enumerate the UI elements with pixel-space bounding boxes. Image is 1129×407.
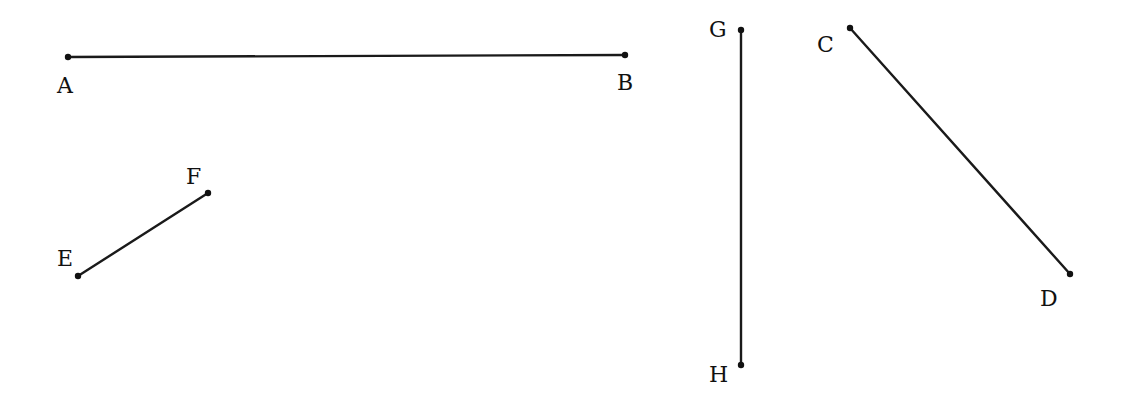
line-ab	[68, 55, 625, 57]
geometry-diagram: A B E F G H C D	[0, 0, 1129, 407]
point-c	[847, 25, 853, 31]
segment-cd: C D	[817, 25, 1073, 311]
point-h	[738, 362, 744, 368]
label-b: B	[617, 70, 633, 95]
label-h: H	[709, 362, 728, 387]
label-d: D	[1040, 286, 1058, 311]
segment-gh: G H	[709, 17, 744, 387]
line-cd	[850, 28, 1070, 274]
label-g: G	[709, 17, 727, 42]
label-f: F	[186, 164, 201, 189]
point-g	[738, 27, 744, 33]
point-b	[622, 52, 628, 58]
point-e	[75, 273, 81, 279]
line-ef	[78, 193, 208, 276]
point-a	[65, 54, 71, 60]
point-f	[205, 190, 211, 196]
label-e: E	[57, 246, 73, 271]
segment-ef: E F	[57, 164, 211, 279]
segment-ab: A B	[56, 52, 633, 98]
point-d	[1067, 271, 1073, 277]
label-c: C	[817, 32, 834, 57]
label-a: A	[56, 73, 74, 98]
